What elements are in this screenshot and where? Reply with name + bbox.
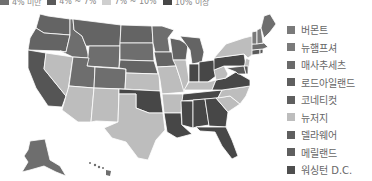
legend-swatch [287, 148, 295, 156]
state-oh[interactable] [199, 60, 216, 82]
us-map [0, 6, 285, 181]
state-fl[interactable] [196, 127, 238, 159]
state-legend: 버몬트 뉴햄프셔 매사추세츠 로드아일랜드 코네티컷 뉴저지 델라웨어 메릴랜드… [287, 21, 355, 179]
state-ri[interactable] [260, 49, 263, 54]
state-nm[interactable] [91, 88, 119, 122]
legend-row-maryland: 메릴랜드 [287, 144, 355, 162]
legend-label: 7% ~ 10% [114, 0, 156, 6]
legend-row-washington-dc: 워싱턴 D.C. [287, 161, 355, 179]
state-co[interactable] [94, 67, 126, 89]
legend-swatch [163, 0, 172, 5]
legend-label: 델라웨어 [301, 127, 337, 142]
legend-label: 뉴햄프셔 [301, 40, 337, 55]
state-ak[interactable] [22, 139, 66, 176]
legend-swatch [47, 0, 56, 5]
legend-row-massachusetts: 매사추세츠 [287, 56, 355, 74]
legend-label: 매사추세츠 [301, 57, 346, 72]
legend-label: 4% ~ 7% [59, 0, 96, 6]
legend-item: 4% ~ 7% [47, 0, 96, 6]
state-nd[interactable] [120, 25, 153, 43]
legend-row-rhode-island: 로드아일랜드 [287, 74, 355, 92]
legend-item: 7% ~ 10% [102, 0, 156, 6]
legend-row-delaware: 델라웨어 [287, 126, 355, 144]
legend-swatch [287, 166, 295, 174]
legend-label: 코네티컷 [301, 92, 337, 107]
legend-swatch [287, 43, 295, 51]
legend-label: 워싱턴 D.C. [301, 162, 352, 177]
legend-row-connecticut: 코네티컷 [287, 91, 355, 109]
legend-swatch [287, 96, 295, 104]
state-ar[interactable] [162, 94, 183, 113]
state-me[interactable] [261, 14, 276, 38]
legend-row-vermont: 버몬트 [287, 21, 355, 39]
legend-label: 로드아일랜드 [301, 75, 355, 90]
state-ms[interactable] [181, 101, 193, 128]
state-sd[interactable] [120, 43, 154, 61]
legend-label: 버몬트 [301, 22, 328, 37]
state-in[interactable] [189, 64, 199, 82]
state-vt[interactable] [252, 31, 257, 44]
state-hi[interactable] [89, 162, 111, 176]
state-wy[interactable] [87, 46, 120, 68]
state-ny[interactable] [214, 36, 256, 58]
legend-row-new-hampshire: 뉴햄프셔 [287, 39, 355, 57]
legend-row-new-jersey: 뉴저지 [287, 109, 355, 127]
legend-swatch [287, 78, 295, 86]
state-ks[interactable] [125, 73, 160, 91]
legend-swatch [0, 0, 9, 5]
legend-swatch [287, 131, 295, 139]
legend-label: 메릴랜드 [301, 145, 337, 160]
legend-swatch [287, 113, 295, 121]
legend-swatch [287, 61, 295, 69]
legend-label: 뉴저지 [301, 110, 328, 125]
legend-swatch [287, 26, 295, 34]
legend-swatch [102, 0, 111, 5]
